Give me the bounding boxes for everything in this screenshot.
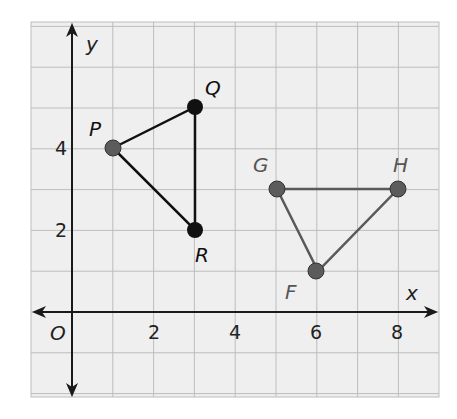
label-q: Q [205, 76, 221, 100]
x-axis-label: x [405, 281, 418, 305]
y-axis-label: y [85, 32, 99, 56]
point-f [308, 263, 324, 279]
x-tick-8: 8 [391, 321, 403, 343]
label-g: G [253, 153, 269, 177]
point-h [390, 181, 406, 197]
label-r: R [195, 243, 209, 267]
point-g [269, 181, 285, 197]
coordinate-plane: y x O 2 4 6 8 2 4 P Q R G H F [0, 0, 457, 419]
y-tick-2: 2 [55, 219, 67, 241]
point-r [187, 222, 203, 238]
x-tick-2: 2 [148, 321, 160, 343]
label-h: H [393, 153, 408, 177]
x-tick-6: 6 [310, 321, 322, 343]
label-f: F [285, 280, 297, 304]
point-p [105, 140, 121, 156]
x-tick-4: 4 [229, 321, 241, 343]
y-tick-4: 4 [55, 137, 67, 159]
origin-label: O [50, 321, 66, 345]
point-q [187, 99, 203, 115]
label-p: P [89, 117, 102, 141]
